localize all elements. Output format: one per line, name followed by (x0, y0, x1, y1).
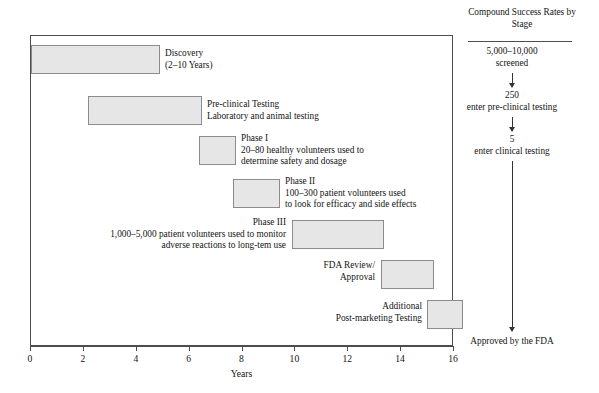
label-line-2: Laboratory and animal testing (207, 111, 319, 121)
success-stage-screened: 5,000–10,000 screened (432, 46, 592, 69)
x-axis-tick-label-10: 10 (290, 353, 300, 364)
x-axis-tick-label-0: 0 (28, 353, 33, 364)
label-line-1: Phase III (253, 217, 286, 227)
arrow-head-icon (509, 327, 515, 332)
x-axis-tick-14 (400, 346, 401, 351)
bar-preclinical-testing (88, 96, 202, 125)
x-axis-title: Years (30, 368, 453, 379)
bar-label-phase-3: Phase III1,000–5,000 patient volunteers … (28, 217, 286, 252)
label-line-3: determine safety and dosage (241, 156, 347, 166)
bar-label-phase-1: Phase I20–80 healthy volunteers used tod… (241, 133, 364, 168)
x-axis-tick-8 (242, 346, 243, 351)
label-line-1: Discovery (165, 48, 203, 58)
label-line-2: (2–10 Years) (165, 60, 213, 70)
label-line-2: 20–80 healthy volunteers used to (241, 145, 364, 155)
label-line-2: Post-marketing Testing (336, 313, 422, 323)
label-line-1: Pre-clinical Testing (207, 99, 279, 109)
label-line-1: Phase II (285, 176, 315, 186)
x-axis-tick-10 (294, 346, 295, 351)
x-axis-tick-6 (189, 346, 190, 351)
success-panel-title: Compound Success Rates by Stage (462, 6, 582, 30)
label-line-1: Additional (382, 301, 422, 311)
success-stage-preclinical: 250 enter pre-clinical testing (432, 90, 592, 113)
bar-discovery (31, 45, 160, 74)
x-axis-tick-label-14: 14 (395, 353, 405, 364)
bar-phase-1 (199, 136, 236, 165)
bar-phase-3 (292, 220, 384, 249)
label-line-2: 100–300 patient volunteers used (285, 188, 406, 198)
bar-label-discovery: Discovery(2–10 Years) (165, 48, 213, 71)
x-axis-tick-label-4: 4 (133, 353, 138, 364)
arrow-shaft (512, 161, 513, 331)
bar-fda-review (381, 260, 434, 289)
x-axis-tick-label-6: 6 (186, 353, 191, 364)
arrow-head-icon (509, 83, 515, 88)
x-axis-tick-label-16: 16 (448, 353, 458, 364)
bar-phase-2 (233, 179, 280, 208)
success-stage-approved: Approved by the FDA (432, 336, 592, 348)
label-line-3: adverse reactions to long-tem use (162, 240, 286, 250)
x-axis-tick-0 (30, 346, 31, 351)
x-axis-tick-12 (347, 346, 348, 351)
success-panel-divider (468, 41, 572, 42)
bar-label-preclinical-testing: Pre-clinical TestingLaboratory and anima… (207, 99, 319, 122)
bar-post-marketing-testing (427, 300, 463, 329)
success-stage-clinical: 5 enter clinical testing (432, 134, 592, 157)
x-axis-tick-label-12: 12 (343, 353, 353, 364)
x-axis-tick-4 (136, 346, 137, 351)
arrow-head-icon (509, 127, 515, 132)
bar-label-phase-2: Phase II100–300 patient volunteers usedt… (285, 176, 416, 211)
x-axis-tick-label-8: 8 (239, 353, 244, 364)
x-axis-tick-2 (83, 346, 84, 351)
label-line-3: to look for efficacy and side effects (285, 199, 416, 209)
drug-development-timeline-figure: Discovery(2–10 Years) Pre-clinical Testi… (0, 0, 599, 393)
bar-label-fda-review: FDA Review/Approval (195, 260, 375, 283)
bar-label-post-marketing-testing: AdditionalPost-marketing Testing (240, 301, 422, 324)
label-line-2: Approval (340, 272, 375, 282)
label-line-2: 1,000–5,000 patient volunteers used to m… (110, 229, 286, 239)
label-line-1: Phase I (241, 133, 268, 143)
x-axis-tick-label-2: 2 (80, 353, 85, 364)
label-line-1: FDA Review/ (324, 260, 375, 270)
